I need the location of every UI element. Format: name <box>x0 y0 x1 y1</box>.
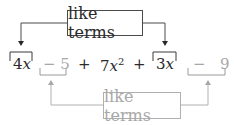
top-like-terms-box: like terms <box>67 10 143 36</box>
arrow-to-minus5 <box>48 80 54 85</box>
top-like-terms-label: like terms <box>68 4 142 42</box>
term-minus-9: − 9 <box>193 57 229 72</box>
arrow-to-minus9 <box>205 80 211 85</box>
term-7x-squared: 7x2 <box>100 57 124 74</box>
like-terms-diagram: like terms 4x − 5 + 7x2 + 3x − 9 like te… <box>0 0 234 125</box>
bottom-right-connector <box>181 84 208 105</box>
arrow-to-3x <box>162 41 168 46</box>
top-left-connector <box>21 23 67 42</box>
top-right-connector <box>143 23 165 42</box>
plus-operator-2: + <box>133 57 146 72</box>
term-4x: 4x <box>13 57 31 72</box>
bottom-like-terms-label: like terms <box>104 87 180 125</box>
term-minus-5: − 5 <box>43 57 70 72</box>
bottom-like-terms-box: like terms <box>103 92 181 119</box>
bottom-left-connector <box>51 84 103 105</box>
term-3x: 3x <box>156 57 174 72</box>
arrow-to-4x <box>18 41 24 46</box>
plus-operator-1: + <box>78 57 91 72</box>
